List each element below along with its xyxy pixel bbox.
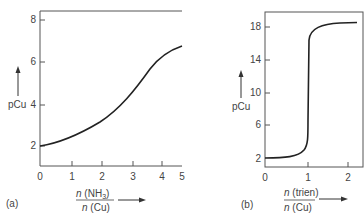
svg-text:0: 0 bbox=[262, 172, 268, 183]
panel-b-frame bbox=[265, 12, 363, 167]
svg-text:18: 18 bbox=[250, 21, 262, 32]
svg-text:3: 3 bbox=[130, 171, 136, 182]
svg-text:n (Cu): n (Cu) bbox=[82, 202, 110, 213]
svg-text:2: 2 bbox=[345, 172, 351, 183]
panel-a-ticks bbox=[40, 20, 162, 166]
panel-a-xlabel: n (NH3) n (Cu) bbox=[76, 188, 146, 213]
svg-text:n (trien): n (trien) bbox=[284, 187, 318, 198]
svg-text:6: 6 bbox=[30, 56, 36, 67]
panel-a-ytick-labels: 2 4 6 8 bbox=[30, 14, 36, 151]
svg-text:14: 14 bbox=[250, 54, 262, 65]
arrow-head-icon bbox=[16, 66, 21, 73]
svg-text:10: 10 bbox=[250, 87, 262, 98]
svg-text:4: 4 bbox=[30, 99, 36, 110]
svg-text:pCu: pCu bbox=[232, 101, 250, 112]
svg-text:8: 8 bbox=[30, 14, 36, 25]
svg-text:4: 4 bbox=[159, 171, 165, 182]
panel-b-xtick-labels: 0 1 2 bbox=[262, 172, 351, 183]
panel-a-xtick-labels: 0 1 2 3 4 5 bbox=[37, 171, 185, 182]
panel-b-curve bbox=[265, 23, 357, 159]
panel-a-label: (a) bbox=[6, 198, 18, 209]
panel-a-ylabel: pCu bbox=[8, 66, 26, 110]
panel-b-ylabel: pCu bbox=[232, 70, 250, 112]
panel-a-frame bbox=[40, 11, 182, 166]
svg-text:2: 2 bbox=[30, 140, 36, 151]
svg-text:5: 5 bbox=[179, 171, 185, 182]
svg-text:0: 0 bbox=[37, 171, 43, 182]
chart-canvas: 0 1 2 3 4 5 2 4 6 8 pCu n (NH3) n (Cu) (… bbox=[0, 0, 364, 221]
panel-a-curve bbox=[40, 46, 182, 146]
panel-b-xlabel: n (trien) n (Cu) bbox=[284, 187, 348, 213]
svg-text:pCu: pCu bbox=[8, 99, 26, 110]
svg-text:n (NH3): n (NH3) bbox=[76, 188, 109, 200]
svg-text:6: 6 bbox=[255, 119, 261, 130]
svg-text:1: 1 bbox=[69, 171, 75, 182]
panel-b-ytick-labels: 2 6 10 14 18 bbox=[250, 21, 262, 164]
arrow-head-icon bbox=[239, 70, 244, 77]
panel-a: 0 1 2 3 4 5 2 4 6 8 pCu n (NH3) n (Cu) (… bbox=[6, 11, 185, 213]
svg-text:2: 2 bbox=[99, 171, 105, 182]
panel-b-label: (b) bbox=[241, 199, 253, 210]
svg-text:n (Cu): n (Cu) bbox=[284, 202, 312, 213]
svg-text:2: 2 bbox=[255, 153, 261, 164]
panel-b: 0 1 2 2 6 10 14 18 pCu n (trien) n (Cu) … bbox=[232, 12, 363, 213]
svg-text:1: 1 bbox=[305, 172, 311, 183]
